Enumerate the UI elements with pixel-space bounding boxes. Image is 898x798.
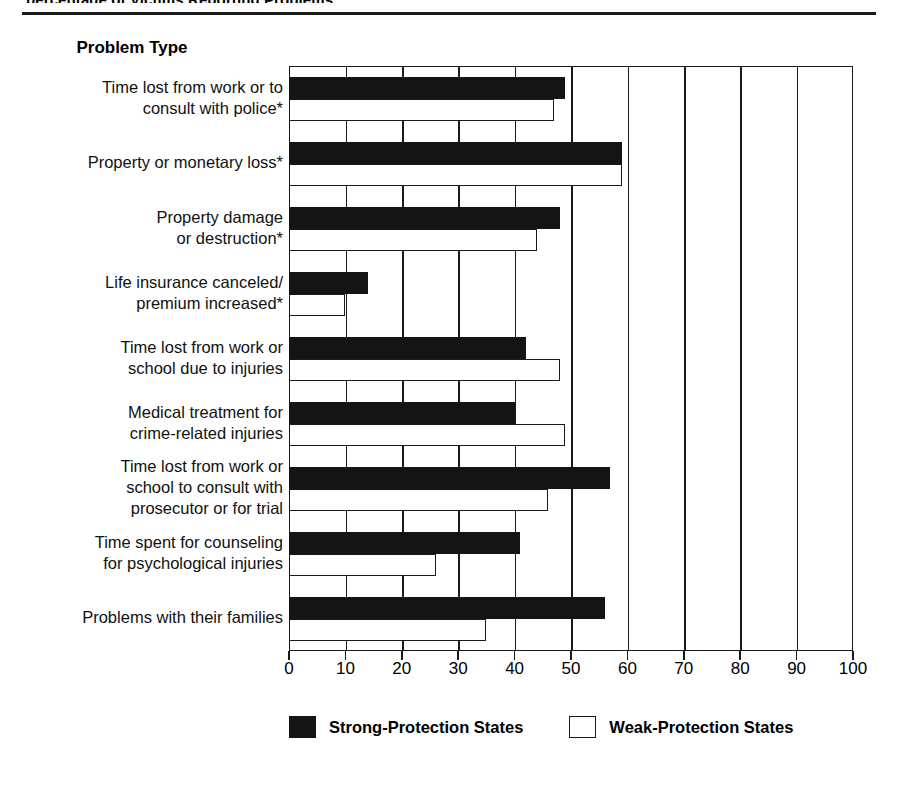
x-tick-label-50: 50 bbox=[562, 659, 581, 679]
bar-group: Time lost from work orschool to consult … bbox=[0, 456, 898, 521]
category-label-line: Life insurance canceled/ bbox=[0, 272, 283, 293]
bar-pair bbox=[289, 207, 560, 251]
bar-group: Life insurance canceled/premium increase… bbox=[0, 261, 898, 326]
x-tick-label-0: 0 bbox=[284, 659, 293, 679]
category-label-line: Time lost from work or bbox=[0, 456, 283, 477]
category-label-line: school to consult with bbox=[0, 477, 283, 498]
bar-pair bbox=[289, 272, 368, 316]
bar-strong-protection bbox=[289, 337, 526, 359]
bar-weak-protection bbox=[289, 554, 436, 576]
category-label: Property damageor destruction* bbox=[0, 207, 283, 249]
bar-pair bbox=[289, 142, 622, 186]
x-tick-label-90: 90 bbox=[787, 659, 806, 679]
legend-swatch-open-icon bbox=[569, 716, 596, 738]
bar-strong-protection bbox=[289, 532, 520, 554]
bar-group: Property damageor destruction* bbox=[0, 196, 898, 261]
category-label-line: Medical treatment for bbox=[0, 402, 283, 423]
x-tick-label-80: 80 bbox=[731, 659, 750, 679]
category-label-line: crime-related injuries bbox=[0, 423, 283, 444]
bar-weak-protection bbox=[289, 359, 560, 381]
category-label-line: Property or monetary loss* bbox=[0, 152, 283, 173]
bar-strong-protection bbox=[289, 597, 605, 619]
category-label-line: Time lost from work or bbox=[0, 337, 283, 358]
category-label-line: prosecutor or for trial bbox=[0, 498, 283, 519]
x-tick-label-40: 40 bbox=[505, 659, 524, 679]
bar-group: Time lost from work orschool due to inju… bbox=[0, 326, 898, 391]
bar-strong-protection bbox=[289, 272, 368, 294]
x-tick-label-60: 60 bbox=[618, 659, 637, 679]
category-label-line: or destruction* bbox=[0, 228, 283, 249]
bar-rows-container: Time lost from work or toconsult with po… bbox=[0, 66, 898, 651]
legend-label: Weak-Protection States bbox=[609, 718, 793, 737]
legend-item-strong-protection[interactable]: Strong-Protection States bbox=[289, 716, 523, 738]
legend-item-weak-protection[interactable]: Weak-Protection States bbox=[569, 716, 793, 738]
chart-legend: Strong-Protection StatesWeak-Protection … bbox=[289, 716, 889, 738]
bar-chart: Problem Type Time lost from work or toco… bbox=[0, 0, 898, 798]
bar-pair bbox=[289, 467, 610, 511]
bar-group: Property or monetary loss* bbox=[0, 131, 898, 196]
bar-pair bbox=[289, 532, 520, 576]
bar-strong-protection bbox=[289, 77, 565, 99]
x-tick-label-70: 70 bbox=[674, 659, 693, 679]
bar-pair bbox=[289, 337, 560, 381]
x-tick-label-10: 10 bbox=[336, 659, 355, 679]
category-label: Life insurance canceled/premium increase… bbox=[0, 272, 283, 314]
bar-strong-protection bbox=[289, 207, 560, 229]
category-label: Medical treatment forcrime-related injur… bbox=[0, 402, 283, 444]
legend-swatch-filled-icon bbox=[289, 716, 316, 738]
x-tick-label-100: 100 bbox=[839, 659, 867, 679]
category-label-line: Problems with their families bbox=[0, 607, 283, 628]
bar-group: Time lost from work or toconsult with po… bbox=[0, 66, 898, 131]
bar-weak-protection bbox=[289, 294, 345, 316]
bar-weak-protection bbox=[289, 424, 565, 446]
category-label: Problems with their families bbox=[0, 607, 283, 628]
bar-pair bbox=[289, 597, 605, 641]
category-label: Time lost from work orschool to consult … bbox=[0, 456, 283, 519]
bar-pair bbox=[289, 77, 565, 121]
category-label: Property or monetary loss* bbox=[0, 152, 283, 173]
bar-weak-protection bbox=[289, 619, 486, 641]
bar-weak-protection bbox=[289, 229, 537, 251]
bar-strong-protection bbox=[289, 467, 610, 489]
bar-group: Medical treatment forcrime-related injur… bbox=[0, 391, 898, 456]
bar-weak-protection bbox=[289, 164, 622, 186]
category-label-line: Time spent for counseling bbox=[0, 532, 283, 553]
legend-label: Strong-Protection States bbox=[329, 718, 523, 737]
bar-group: Problems with their families bbox=[0, 586, 898, 651]
category-label-line: for psychological injuries bbox=[0, 553, 283, 574]
category-axis-title: Problem Type bbox=[0, 38, 289, 58]
bar-weak-protection bbox=[289, 489, 548, 511]
category-label: Time lost from work orschool due to inju… bbox=[0, 337, 283, 379]
category-label: Time lost from work or toconsult with po… bbox=[0, 77, 283, 119]
category-label-line: consult with police* bbox=[0, 98, 283, 119]
bar-pair bbox=[289, 402, 565, 446]
x-tick-label-20: 20 bbox=[392, 659, 411, 679]
category-label-line: premium increased* bbox=[0, 293, 283, 314]
x-tick-label-30: 30 bbox=[449, 659, 468, 679]
category-label-line: Time lost from work or to bbox=[0, 77, 283, 98]
category-label-line: Property damage bbox=[0, 207, 283, 228]
bar-strong-protection bbox=[289, 402, 515, 424]
x-axis: 0102030405060708090100 bbox=[289, 651, 853, 681]
category-label-line: school due to injuries bbox=[0, 358, 283, 379]
bar-weak-protection bbox=[289, 99, 554, 121]
bar-group: Time spent for counselingfor psychologic… bbox=[0, 521, 898, 586]
category-label: Time spent for counselingfor psychologic… bbox=[0, 532, 283, 574]
bar-strong-protection bbox=[289, 142, 622, 164]
